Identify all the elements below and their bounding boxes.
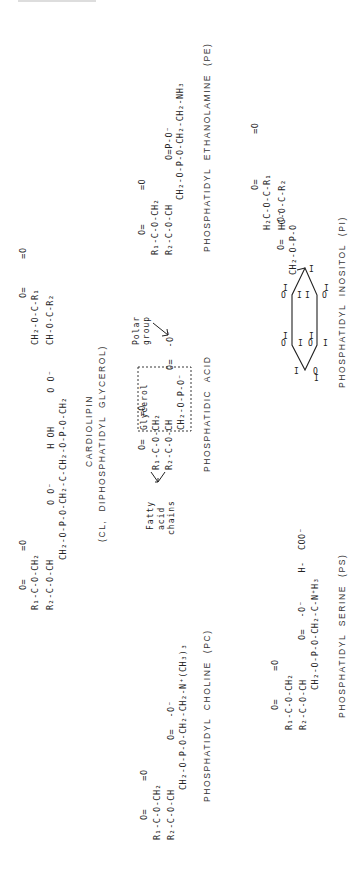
svg-text:I: I (297, 291, 302, 300)
diagram-graphics: I OI OI II OI I OI I I OI (0, 0, 363, 870)
svg-text:I: I (314, 374, 319, 383)
glycerol-box (138, 367, 191, 431)
polar-group-arrow (153, 323, 168, 336)
svg-text:I: I (323, 339, 328, 348)
svg-text:I: I (309, 332, 314, 341)
svg-text:I: I (309, 265, 314, 274)
svg-text:I: I (305, 291, 310, 300)
svg-text:I: I (283, 332, 288, 341)
svg-text:I: I (283, 284, 288, 293)
fatty-acid-arrow (151, 472, 165, 482)
svg-text:I: I (298, 339, 303, 348)
inositol-ring-substituents: I OI OI II OI I OI I I OI (281, 265, 329, 383)
inositol-ring (292, 268, 317, 370)
svg-text:I: I (324, 284, 329, 293)
svg-text:I: I (294, 367, 299, 376)
